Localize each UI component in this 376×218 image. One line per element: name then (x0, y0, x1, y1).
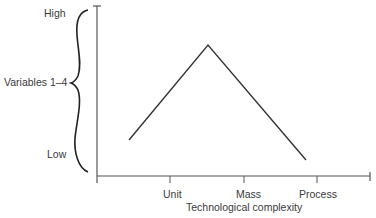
data-line (129, 45, 306, 160)
label-variables: Variables 1–4 (4, 76, 67, 88)
tick-label-mass: Mass (236, 188, 261, 200)
x-axis-title: Technological complexity (186, 201, 302, 213)
curly-brace (71, 10, 88, 172)
tick-label-process: Process (299, 188, 337, 200)
tick-label-unit: Unit (163, 188, 182, 200)
diagram-canvas (0, 0, 376, 218)
label-high: High (44, 7, 66, 19)
label-low: Low (47, 148, 66, 160)
